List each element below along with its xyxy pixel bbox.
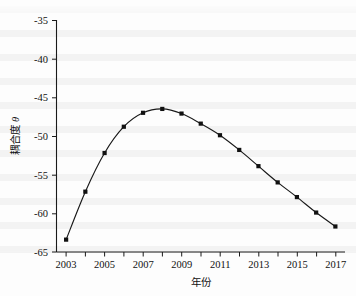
chart-figure: -35 -40 -45 -50 -55 -60 -65 — [0, 0, 356, 296]
data-point — [141, 111, 145, 115]
data-point — [64, 238, 68, 242]
y-axis-title-symbol: θ — [10, 117, 21, 122]
data-point — [199, 122, 203, 126]
data-point — [276, 180, 280, 184]
y-axis-tick-labels: -35 -40 -45 -50 -55 -60 -65 — [34, 15, 48, 258]
x-tick-label: 2007 — [133, 259, 154, 270]
x-axis-ticks — [66, 252, 336, 257]
data-point — [256, 164, 260, 168]
data-point — [83, 190, 87, 194]
data-point — [237, 148, 241, 152]
data-point — [122, 125, 126, 129]
x-tick-label: 2003 — [56, 259, 77, 270]
x-tick-label: 2011 — [210, 259, 231, 270]
y-tick-label: -60 — [34, 208, 48, 219]
x-tick-label: 2017 — [325, 259, 346, 270]
y-tick-label: -65 — [34, 247, 48, 258]
x-tick-label: 2005 — [94, 259, 115, 270]
x-tick-label: 2009 — [171, 259, 192, 270]
x-axis-tick-labels: 2003 2005 2007 2009 2011 2013 2015 2017 — [56, 259, 347, 270]
data-point — [160, 107, 164, 111]
data-point — [102, 151, 106, 155]
y-tick-label: -55 — [34, 170, 48, 181]
data-point — [218, 133, 222, 137]
y-tick-label: -35 — [34, 15, 48, 26]
x-tick-label: 2015 — [287, 259, 308, 270]
y-tick-label: -50 — [34, 131, 48, 142]
y-tick-label: -40 — [34, 54, 48, 65]
y-tick-label: -45 — [34, 92, 48, 103]
x-tick-label: 2013 — [248, 259, 269, 270]
data-point — [314, 210, 318, 214]
y-axis-title: 耦合度θ — [9, 117, 21, 155]
y-axis-title-text: 耦合度 — [9, 124, 21, 155]
line-chart-plot: -35 -40 -45 -50 -55 -60 -65 — [0, 0, 356, 296]
data-point — [179, 111, 183, 115]
data-point — [295, 195, 299, 199]
x-axis-title: 年份 — [191, 276, 212, 288]
y-axis-ticks — [52, 21, 57, 253]
series-line-coupling-degree — [66, 109, 335, 240]
data-point — [333, 224, 337, 228]
series-markers — [64, 107, 337, 242]
